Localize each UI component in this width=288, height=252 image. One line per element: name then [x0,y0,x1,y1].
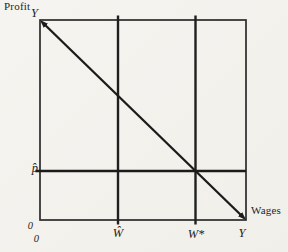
zero-y-axis-label: 0 [20,220,33,231]
x-axis-title: Wages [251,205,281,217]
figure-canvas: Profit Y p̂ 0 0 Ŵ W* Y Wages [0,0,288,252]
plot-lines [0,0,288,252]
profit-wage-frontier-line [42,22,244,218]
y-top-tick-label: Y [22,7,38,20]
w-hat-tick-label: Ŵ [106,227,130,240]
p-hat-tick-label: p̂ [20,162,38,175]
y-bottom-tick-label: Y [234,227,250,240]
w-star-tick-label: W* [183,228,209,241]
zero-origin-label: 0 [26,233,39,244]
